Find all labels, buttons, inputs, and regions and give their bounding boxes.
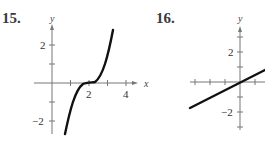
y-axis-label: y: [49, 13, 55, 24]
graph-16: 2 −2 y: [190, 13, 265, 130]
graph-15: 2 4 2 −2 y: [32, 13, 138, 134]
y-tick-2: 2: [40, 39, 46, 51]
y-tick-2: 2: [228, 46, 234, 58]
graphs: 2 4 2 −2 y x 2 −2 y: [0, 0, 265, 142]
y-axis-label: y: [237, 13, 243, 24]
x-axis-label-15: x: [143, 78, 149, 89]
linear-function-line: [190, 70, 265, 108]
y-axis-arrow-icon: [238, 26, 242, 32]
x-tick-2: 2: [86, 88, 92, 100]
y-tick-neg2: −2: [32, 115, 44, 127]
y-axis-arrow-icon: [50, 24, 54, 30]
cubic-curve: [65, 30, 113, 134]
x-tick-4: 4: [123, 88, 129, 100]
x-axis-arrow-icon: [132, 81, 138, 85]
y-tick-neg2: −2: [221, 106, 233, 118]
